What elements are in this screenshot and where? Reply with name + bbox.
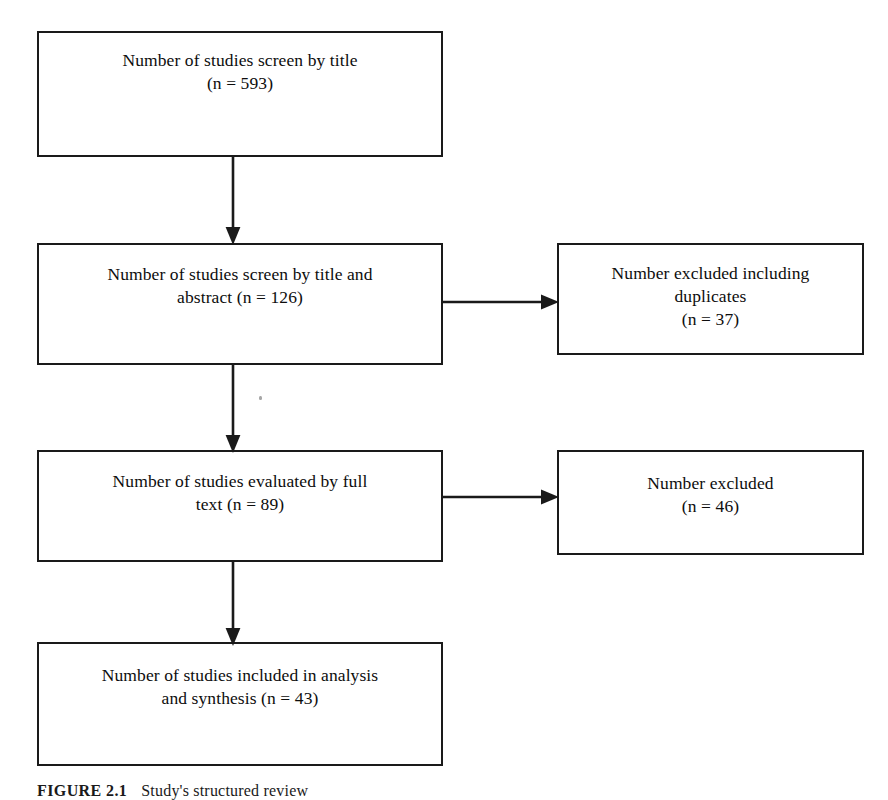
flow-box-included-in-analysis-and-synthesis: Number of studies included in analysis a…	[37, 642, 443, 766]
flow-box-excluded-after-full-text: Number excluded (n = 46)	[557, 450, 864, 555]
figure-canvas: Number of studies screen by title (n = 5…	[0, 0, 888, 800]
figure-caption: FIGURE 2.1Study's structured review	[37, 781, 837, 800]
figure-caption-text: Study's structured review	[141, 782, 308, 799]
flow-box-label: Number of studies included in analysis a…	[39, 644, 441, 710]
flow-box-label: Number excluded (n = 46)	[559, 452, 862, 518]
arrow-down-fulltext-to-included-icon	[222, 560, 246, 648]
flow-box-label: Number of studies evaluated by full text…	[39, 452, 441, 516]
flow-box-label: Number of studies screen by title and ab…	[39, 245, 441, 309]
arrow-right-abstract-to-excluded-duplicates-icon	[441, 290, 565, 316]
scan-artifact-speck	[259, 396, 262, 400]
flow-box-screened-by-title-and-abstract: Number of studies screen by title and ab…	[37, 243, 443, 365]
flow-box-label: Number excluded including duplicates (n …	[559, 245, 862, 331]
arrow-right-fulltext-to-excluded-icon	[441, 485, 565, 511]
arrow-down-title-to-abstract-icon	[222, 155, 246, 247]
flow-box-evaluated-by-full-text: Number of studies evaluated by full text…	[37, 450, 443, 562]
flow-box-label: Number of studies screen by title (n = 5…	[39, 33, 441, 95]
arrow-down-abstract-to-fulltext-icon	[222, 363, 246, 455]
flow-box-excluded-including-duplicates: Number excluded including duplicates (n …	[557, 243, 864, 355]
flow-box-screened-by-title: Number of studies screen by title (n = 5…	[37, 31, 443, 157]
figure-caption-label: FIGURE 2.1	[37, 782, 127, 799]
